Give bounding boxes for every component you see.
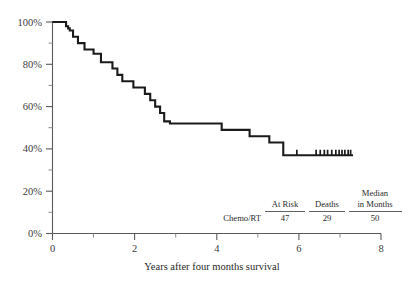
x-tick-label-4: 4 (214, 243, 220, 254)
survival-curve-chemort (53, 22, 354, 155)
risk-table-header-deaths: Deaths (315, 199, 340, 209)
y-tick-label-100: 100% (18, 17, 43, 28)
risk-table-row-label: Chemo/RT (223, 213, 261, 223)
risk-table-header-median-line2: in Months (357, 199, 393, 209)
survival-curve-group (53, 22, 354, 155)
survival-chart-svg: 100% 80% 60% 40% 20% 0% 0 2 4 6 8 Years … (0, 0, 415, 288)
x-axis-title: Years after four months survival (144, 261, 279, 272)
y-tick-label-40: 40% (23, 143, 43, 154)
risk-table-value-median: 50 (371, 213, 380, 223)
x-axis: 0 2 4 6 8 Years after four months surviv… (50, 234, 384, 273)
risk-table-header-median-line1: Median (362, 188, 389, 198)
risk-table-header-at-risk: At Risk (272, 199, 299, 209)
risk-table-value-at-risk: 47 (281, 213, 290, 223)
x-tick-label-0: 0 (50, 243, 55, 254)
y-tick-label-20: 20% (23, 186, 43, 197)
y-tick-label-60: 60% (23, 101, 43, 112)
risk-table-value-deaths: 29 (323, 213, 332, 223)
y-axis: 100% 80% 60% 40% 20% 0% (18, 17, 53, 240)
y-tick-label-80: 80% (23, 59, 43, 70)
x-tick-label-8: 8 (378, 243, 383, 254)
x-tick-label-6: 6 (296, 243, 301, 254)
y-tick-label-0: 0% (28, 228, 42, 239)
x-tick-label-2: 2 (132, 243, 137, 254)
kaplan-meier-figure: 100% 80% 60% 40% 20% 0% 0 2 4 6 8 Years … (0, 0, 415, 288)
risk-table: At Risk Deaths Median in Months Chemo/RT… (223, 188, 402, 223)
